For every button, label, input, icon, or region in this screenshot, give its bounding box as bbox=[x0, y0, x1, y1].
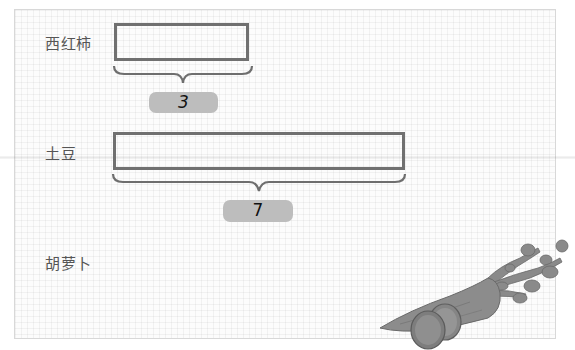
row-label-tomato: 西红柿 bbox=[45, 32, 92, 53]
value-badge-potato: 7 bbox=[223, 200, 293, 222]
row-label-potato: 土豆 bbox=[45, 142, 76, 163]
value-badge-tomato: 3 bbox=[149, 92, 218, 113]
brace-potato bbox=[111, 172, 407, 194]
brace-tomato bbox=[112, 64, 254, 86]
bar-potato bbox=[113, 132, 405, 170]
bar-tomato bbox=[114, 23, 249, 61]
carrot-illustration-icon bbox=[370, 238, 570, 350]
row-label-carrot: 胡萝卜 bbox=[45, 252, 92, 273]
